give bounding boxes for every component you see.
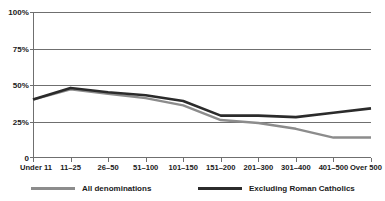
x-tick-label: 26–50 xyxy=(98,163,119,172)
y-tick-label-50: 50% xyxy=(13,81,29,90)
x-tickmark xyxy=(108,158,109,162)
x-tickmark xyxy=(71,158,72,162)
y-tick-label-100: 100% xyxy=(8,8,29,17)
x-tick-label: 11–25 xyxy=(60,163,81,172)
y-tick-label-25: 25% xyxy=(13,117,29,126)
legend-item-excluding-roman-catholics: Excluding Roman Catholics xyxy=(198,184,355,193)
legend-label-excluding-roman-catholics: Excluding Roman Catholics xyxy=(249,184,355,193)
y-tick-label-0: 0 xyxy=(24,154,29,163)
legend-label-all-denominations: All denominations xyxy=(82,184,151,193)
plot-area xyxy=(33,12,371,158)
y-tick-label-75: 75% xyxy=(13,44,29,53)
x-tick-label: 201–300 xyxy=(244,163,274,172)
x-tick-label: 301–400 xyxy=(281,163,311,172)
x-tick-label: 401–500 xyxy=(319,163,349,172)
x-tick-label: 151–200 xyxy=(206,163,236,172)
x-tickmark xyxy=(146,158,147,162)
legend-swatch-all-denominations xyxy=(31,187,75,190)
x-tickmark xyxy=(183,158,184,162)
x-tick-label: 51–100 xyxy=(133,163,158,172)
x-tickmark xyxy=(33,158,34,162)
x-axis-labels: Under 1111–2526–5051–100101–150151–20020… xyxy=(0,163,385,177)
x-tickmark xyxy=(296,158,297,162)
x-tick-label: Over 500 xyxy=(350,163,382,172)
x-tick-label: Under 11 xyxy=(20,163,52,172)
x-tickmark xyxy=(371,158,372,162)
x-tick-label: 101–150 xyxy=(168,163,198,172)
chart-legend: All denominations Excluding Roman Cathol… xyxy=(0,183,385,199)
x-tickmark xyxy=(221,158,222,162)
x-tickmark xyxy=(333,158,334,162)
series-lines xyxy=(33,12,371,158)
legend-item-all-denominations: All denominations xyxy=(31,184,151,193)
x-tickmark xyxy=(258,158,259,162)
chart-container: 100% 75% 50% 25% 0 Under 1111–2526–5051–… xyxy=(0,0,385,201)
y-axis-labels: 100% 75% 50% 25% 0 xyxy=(0,12,29,158)
legend-swatch-excluding-roman-catholics xyxy=(198,187,242,190)
